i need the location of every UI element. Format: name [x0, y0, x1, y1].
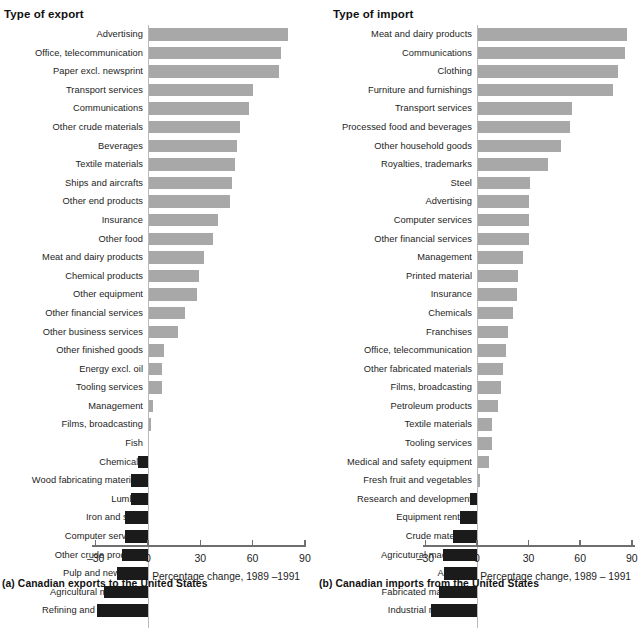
bar-label: Medical and safety equipment: [347, 453, 472, 472]
bar-label: Insurance: [102, 211, 143, 230]
bar-label: Petroleum products: [390, 397, 472, 416]
bar-label: Paper excl. newsprint: [53, 62, 143, 81]
bar: [148, 251, 204, 264]
axis-tick: [425, 540, 427, 545]
bar: [477, 251, 523, 264]
bar-row: Chemicals: [0, 453, 318, 472]
bar-row: Iron and steel: [0, 508, 318, 527]
bar-label: Fish: [125, 434, 143, 453]
bar: [477, 363, 503, 376]
bar-row: Refining and processing: [0, 601, 318, 620]
bar: [148, 158, 235, 171]
bar-label: Printed material: [406, 267, 472, 286]
bar-row: Management: [0, 397, 318, 416]
bar-row: Other business services: [0, 323, 318, 342]
bar-label: Tooling services: [76, 378, 143, 397]
bar-label: Wood fabricating materials: [32, 471, 143, 490]
bar-label: Transport services: [395, 99, 472, 118]
bar-label: Transport services: [66, 81, 143, 100]
bar: [477, 158, 548, 171]
bar-row: Advertising: [0, 25, 318, 44]
axis-tick-label: –30: [87, 552, 105, 564]
bar: [148, 140, 237, 153]
bar: [477, 214, 529, 227]
bar-label: Tooling services: [405, 434, 472, 453]
bar-label: Fresh fruit and vegetables: [363, 471, 472, 490]
panel-a-rows: AdvertisingOffice, telecommunicationPape…: [0, 25, 318, 620]
bar-label: Ships and aircrafts: [65, 174, 143, 193]
bar: [148, 65, 279, 78]
axis-tick: [200, 540, 202, 545]
bar: [477, 140, 561, 153]
bar: [477, 102, 572, 115]
bar-label: Other fabricated materials: [364, 360, 472, 379]
bar-row: Wood fabricating materials: [0, 471, 318, 490]
bar-row: Beverages: [0, 137, 318, 156]
bar: [148, 47, 281, 60]
bar: [477, 400, 498, 413]
bar-label: Other crude materials: [53, 118, 143, 137]
bar: [477, 456, 489, 469]
bar: [148, 288, 197, 301]
bar-label: Chemicals: [428, 304, 472, 323]
bar-row: Other equipment: [0, 285, 318, 304]
bar-label: Clothing: [437, 62, 472, 81]
panel-b-zero-line: [477, 25, 479, 628]
bar-label: Insurance: [431, 285, 472, 304]
bar: [131, 474, 148, 487]
bar: [148, 195, 230, 208]
panel-imports: Type of import Meat and dairy productsCo…: [319, 0, 637, 601]
bar-label: Films, broadcasting: [61, 415, 143, 434]
bar: [148, 28, 288, 41]
axis-tick: [579, 540, 581, 545]
bar-label: Advertising: [96, 25, 143, 44]
panel-a-axis: [92, 545, 306, 547]
bar: [477, 418, 492, 431]
bar: [97, 604, 148, 617]
bar-row: Films, broadcasting: [0, 415, 318, 434]
bar-label: Research and development: [357, 490, 472, 509]
bar: [125, 530, 148, 543]
bar-label: Meat and dairy products: [371, 25, 472, 44]
panel-a-caption: (a) Canadian exports to the United State…: [2, 578, 208, 589]
panel-a-zero-line: [148, 25, 150, 628]
bar-label: Computer services: [394, 211, 472, 230]
bar: [148, 102, 249, 115]
bar: [148, 344, 164, 357]
bar: [477, 65, 618, 78]
bar: [477, 381, 501, 394]
bar-row: Ships and aircrafts: [0, 174, 318, 193]
axis-tick-label: 0: [474, 552, 480, 564]
bar-row: Chemical products: [0, 267, 318, 286]
axis-tick: [147, 540, 149, 545]
panel-a-plot: AdvertisingOffice, telecommunicationPape…: [0, 25, 318, 545]
bar: [148, 270, 199, 283]
bar-label: Other household goods: [374, 137, 472, 156]
bar-label: Furniture and furnishings: [368, 81, 472, 100]
bar-row: Paper excl. newsprint: [0, 62, 318, 81]
axis-tick: [95, 540, 97, 545]
bar-row: Energy excl. oil: [0, 360, 318, 379]
bar-row: Other food: [0, 230, 318, 249]
bar-row: Communications: [0, 99, 318, 118]
bar: [443, 549, 477, 562]
bar: [131, 493, 148, 506]
bar: [477, 28, 627, 41]
panel-a-title: Type of export: [4, 8, 84, 20]
bar: [148, 326, 178, 339]
bar-row: Meat and dairy products: [0, 248, 318, 267]
bar: [148, 381, 162, 394]
axis-tick-label: 60: [574, 552, 586, 564]
axis-tick: [304, 540, 306, 545]
axis-tick-label: 90: [299, 552, 311, 564]
axis-tick-label: 90: [626, 552, 638, 564]
bar: [138, 456, 148, 469]
panel-b-axis: [423, 545, 635, 547]
panel-exports: Type of export AdvertisingOffice, teleco…: [0, 0, 318, 601]
bar-label: Office, telecommunication: [35, 44, 143, 63]
bar: [477, 307, 513, 320]
bar-label: Other finished goods: [56, 341, 143, 360]
bar-label: Meat and dairy products: [42, 248, 143, 267]
bar-row: Insurance: [0, 211, 318, 230]
bar: [460, 511, 477, 524]
